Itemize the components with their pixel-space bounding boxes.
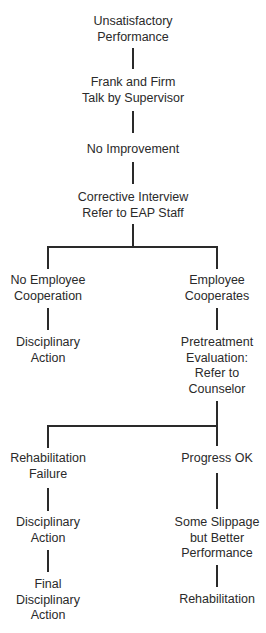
node-final-disciplinary-action: Final Disciplinary Action	[16, 577, 80, 624]
node-text: Talk by Supervisor	[82, 91, 184, 107]
node-text: Frank and Firm	[82, 75, 184, 91]
node-rehabilitation-failure: Rehabilitation Failure	[10, 451, 86, 482]
node-text: Disciplinary	[16, 593, 80, 609]
branch-connector	[47, 425, 218, 427]
node-text: Action	[16, 608, 80, 624]
node-progress-ok: Progress OK	[181, 451, 253, 467]
node-no-employee-cooperation: No Employee Cooperation	[10, 273, 85, 304]
connector	[216, 401, 218, 446]
node-text: No Improvement	[87, 142, 179, 158]
node-text: Performance	[175, 546, 260, 562]
connector	[216, 308, 218, 330]
node-text: Disciplinary	[16, 515, 80, 531]
node-text: Action	[16, 531, 80, 547]
node-text: Cooperates	[185, 289, 250, 305]
node-text: Action	[16, 351, 80, 367]
node-text: No Employee	[10, 273, 85, 289]
node-text: Employee	[185, 273, 250, 289]
node-text: Final	[16, 577, 80, 593]
node-text: Evaluation:	[181, 351, 253, 367]
node-disciplinary-action-2: Disciplinary Action	[16, 515, 80, 546]
connector	[47, 488, 49, 511]
node-frank-and-firm-talk: Frank and Firm Talk by Supervisor	[82, 75, 184, 106]
connector	[216, 473, 218, 509]
node-some-slippage: Some Slippage but Better Performance	[175, 515, 260, 562]
node-text: Pretreatment	[181, 335, 253, 351]
connector	[132, 224, 134, 247]
connector	[47, 246, 49, 269]
node-employee-cooperates: Employee Cooperates	[185, 273, 250, 304]
node-text: Rehabilitation	[10, 451, 86, 467]
node-text: Failure	[10, 467, 86, 483]
node-text: Progress OK	[181, 451, 253, 467]
connector	[132, 48, 134, 69]
node-disciplinary-action-1: Disciplinary Action	[16, 335, 80, 366]
node-text: Corrective Interview	[78, 190, 188, 206]
connector	[47, 425, 49, 448]
branch-connector	[47, 246, 218, 248]
node-pretreatment-evaluation: Pretreatment Evaluation: Refer to Counse…	[181, 335, 253, 397]
node-text: Counselor	[181, 382, 253, 398]
node-rehabilitation: Rehabilitation	[179, 592, 255, 608]
connector	[216, 246, 218, 269]
node-text: Refer to	[181, 366, 253, 382]
node-unsatisfactory-performance: Unsatisfactory Performance	[93, 14, 172, 45]
node-text: Cooperation	[10, 289, 85, 305]
node-text: Rehabilitation	[179, 592, 255, 608]
node-text: Some Slippage	[175, 515, 260, 531]
node-text: Performance	[93, 30, 172, 46]
node-no-improvement: No Improvement	[87, 142, 179, 158]
node-text: Refer to EAP Staff	[78, 206, 188, 222]
connector	[132, 111, 134, 133]
connector	[47, 550, 49, 572]
node-text: but Better	[175, 531, 260, 547]
node-corrective-interview: Corrective Interview Refer to EAP Staff	[78, 190, 188, 221]
node-text: Disciplinary	[16, 335, 80, 351]
connector	[132, 162, 134, 184]
node-text: Unsatisfactory	[93, 14, 172, 30]
connector	[47, 308, 49, 330]
connector	[216, 565, 218, 587]
